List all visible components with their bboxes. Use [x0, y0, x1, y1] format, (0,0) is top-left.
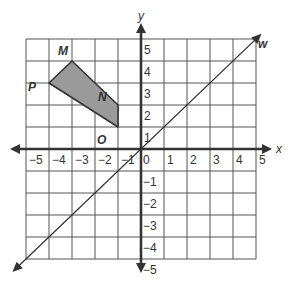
x-tick-label: 4	[236, 153, 243, 167]
x-tick-label: 1	[167, 153, 174, 167]
vertex-label-m: M	[58, 44, 69, 58]
x-tick-label: −3	[75, 153, 89, 167]
line-w-label: w	[258, 37, 268, 51]
x-tick-label: −1	[121, 153, 135, 167]
x-axis-label: x	[275, 142, 283, 156]
polygon-mnop	[49, 61, 118, 127]
polygon-shape	[49, 61, 118, 127]
x-tick-label: 0	[143, 153, 150, 167]
x-axis-arrow-left-icon	[10, 144, 20, 154]
y-tick-label: −1	[143, 175, 157, 189]
y-tick-label: −4	[143, 241, 157, 255]
coordinate-plane: xy w −5−4−3−2−101234512345−1−2−3−4−5 MNO…	[0, 0, 288, 286]
x-tick-label: −4	[52, 153, 66, 167]
x-tick-label: 2	[190, 153, 197, 167]
x-tick-label: 3	[213, 153, 220, 167]
y-axis-label: y	[137, 9, 145, 23]
vertex-label-o: O	[97, 133, 107, 147]
coordinate-plane-figure: xy w −5−4−3−2−101234512345−1−2−3−4−5 MNO…	[0, 0, 288, 286]
vertex-label-n: N	[98, 90, 107, 104]
x-tick-label: −5	[29, 153, 43, 167]
y-tick-label: 5	[144, 43, 151, 57]
x-tick-label: −2	[98, 153, 112, 167]
x-tick-label: 5	[259, 153, 266, 167]
y-tick-label: −2	[143, 197, 157, 211]
y-tick-label: 1	[144, 131, 151, 145]
y-tick-label: −3	[143, 219, 157, 233]
y-axis-arrow-up-icon	[136, 23, 146, 33]
y-tick-label: −5	[143, 263, 157, 277]
y-tick-label: 3	[144, 87, 151, 101]
vertex-label-p: P	[28, 80, 37, 94]
y-tick-label: 4	[144, 65, 151, 79]
y-tick-label: 2	[144, 109, 151, 123]
